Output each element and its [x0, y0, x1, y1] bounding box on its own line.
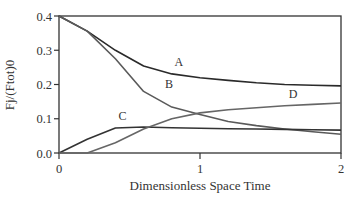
y-tick-label: 0.0 — [36, 147, 52, 161]
y-tick-label: 0.4 — [36, 10, 52, 24]
series-label-a: A — [175, 55, 184, 69]
y-tick-label: 0.1 — [36, 112, 52, 126]
series-line-a — [59, 16, 341, 86]
y-tick-label: 0.3 — [36, 44, 52, 58]
series-lines — [59, 16, 341, 153]
series-label-c: C — [118, 109, 126, 123]
y-axis: 0.00.10.20.30.4 — [36, 10, 59, 161]
series-line-b — [59, 16, 341, 134]
y-axis-title: Fj/(Ftot)0 — [2, 60, 17, 111]
y-tick-label: 0.2 — [36, 78, 52, 92]
series-labels: ABCD — [118, 55, 297, 124]
x-axis-title: Dimensionless Space Time — [130, 178, 271, 193]
x-axis: 012 — [56, 153, 344, 176]
line-chart: 0.00.10.20.30.4 012 ABCD Dimensionless S… — [0, 0, 361, 198]
x-tick-label: 1 — [197, 162, 203, 176]
series-label-b: B — [165, 77, 173, 91]
series-label-d: D — [289, 87, 298, 101]
x-tick-label: 2 — [338, 162, 344, 176]
x-tick-label: 0 — [56, 162, 62, 176]
